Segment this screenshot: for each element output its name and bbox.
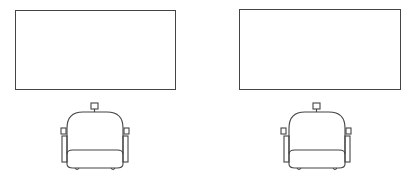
screen-1: [15, 10, 176, 90]
chair-2: [280, 98, 360, 178]
chair-1: [55, 98, 135, 178]
chair-icon: [280, 98, 360, 178]
chair-icon: [55, 98, 135, 178]
screen-2: [239, 9, 401, 90]
